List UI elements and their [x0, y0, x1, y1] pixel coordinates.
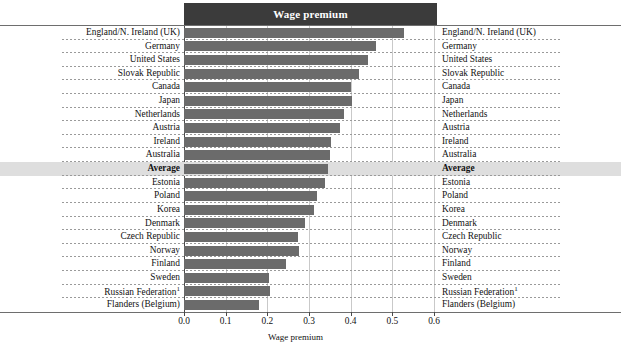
table-row: AustriaAustria	[0, 121, 621, 135]
row-label-left: Czech Republic	[62, 230, 180, 244]
bar	[184, 164, 328, 174]
table-row: PolandPoland	[0, 189, 621, 203]
row-label-left: Japan	[62, 94, 180, 108]
row-label-right: Ireland	[442, 135, 592, 149]
row-label-right: Poland	[442, 189, 592, 203]
table-row: NorwayNorway	[0, 244, 621, 258]
table-row: IrelandIreland	[0, 135, 621, 149]
bar	[184, 137, 331, 147]
table-row: JapanJapan	[0, 94, 621, 108]
row-label-left: Flanders (Belgium)	[62, 298, 180, 312]
table-row: Czech RepublicCzech Republic	[0, 230, 621, 244]
table-row: EstoniaEstonia	[0, 176, 621, 190]
row-label-left: Canada	[62, 80, 180, 94]
bar-rows: England/N. Ireland (UK)England/N. Irelan…	[0, 26, 621, 312]
x-axis: Wage premium 0.00.10.20.30.40.50.6	[0, 312, 621, 346]
row-label-right: Estonia	[442, 176, 592, 190]
row-label-left: Denmark	[62, 217, 180, 231]
table-row: Russian Federation1Russian Federation1	[0, 285, 621, 299]
row-label-left: Ireland	[62, 135, 180, 149]
row-label-left: Slovak Republic	[62, 67, 180, 81]
row-label-right: Czech Republic	[442, 230, 592, 244]
bar	[184, 178, 325, 188]
bar	[184, 96, 352, 106]
bar	[184, 109, 344, 119]
row-label-left: Norway	[62, 244, 180, 258]
row-label-left: Australia	[62, 148, 180, 162]
bar	[184, 205, 314, 215]
row-label-right: Germany	[442, 40, 592, 54]
table-row: England/N. Ireland (UK)England/N. Irelan…	[0, 26, 621, 40]
bar	[184, 273, 269, 283]
row-label-right: Canada	[442, 80, 592, 94]
x-axis-label: Wage premium	[268, 332, 323, 342]
x-tick-label-0.4: 0.4	[345, 316, 357, 326]
chart-title: Wage premium	[273, 8, 348, 20]
table-row: FinlandFinland	[0, 257, 621, 271]
row-label-right: United States	[442, 53, 592, 67]
row-label-right: Austria	[442, 121, 592, 135]
row-label-left: Germany	[62, 40, 180, 54]
table-row: AustraliaAustralia	[0, 148, 621, 162]
row-label-right: Denmark	[442, 217, 592, 231]
row-label-right: Australia	[442, 148, 592, 162]
row-label-right: Average	[442, 162, 592, 176]
x-tick-label-0.5: 0.5	[386, 316, 398, 326]
row-label-right: Flanders (Belgium)	[442, 298, 592, 312]
x-tick-label-0.3: 0.3	[303, 316, 315, 326]
row-label-left: Estonia	[62, 176, 180, 190]
row-label-left: Austria	[62, 121, 180, 135]
row-label-left: England/N. Ireland (UK)	[62, 26, 180, 40]
table-row: NetherlandsNetherlands	[0, 108, 621, 122]
row-label-right: Korea	[442, 203, 592, 217]
x-tick-label-0.1: 0.1	[220, 316, 232, 326]
bar	[184, 191, 317, 201]
bar	[184, 55, 368, 65]
bar	[184, 82, 351, 92]
row-label-right: England/N. Ireland (UK)	[442, 26, 592, 40]
table-row: United StatesUnited States	[0, 53, 621, 67]
table-row: KoreaKorea	[0, 203, 621, 217]
table-row: GermanyGermany	[0, 40, 621, 54]
row-label-left: United States	[62, 53, 180, 67]
chart-title-bar: Wage premium	[184, 3, 437, 25]
table-row: Flanders (Belgium)Flanders (Belgium)	[0, 298, 621, 312]
table-row: Slovak RepublicSlovak Republic	[0, 67, 621, 81]
bar	[184, 259, 286, 269]
bar	[184, 69, 359, 79]
row-label-right: Finland	[442, 257, 592, 271]
table-row: CanadaCanada	[0, 80, 621, 94]
bar	[184, 123, 340, 133]
bar	[184, 218, 305, 228]
row-label-left: Average	[62, 162, 180, 176]
row-label-left: Poland	[62, 189, 180, 203]
row-label-right: Japan	[442, 94, 592, 108]
bar	[184, 150, 330, 160]
bar	[184, 300, 259, 310]
bar	[184, 28, 404, 38]
bar	[184, 232, 298, 242]
bar	[184, 41, 376, 51]
row-label-left: Finland	[62, 257, 180, 271]
row-label-right: Norway	[442, 244, 592, 258]
table-row: DenmarkDenmark	[0, 217, 621, 231]
bar	[184, 286, 270, 296]
row-label-right: Slovak Republic	[442, 67, 592, 81]
bar	[184, 246, 299, 256]
row-label-right: Netherlands	[442, 108, 592, 122]
table-row: AverageAverage	[0, 162, 621, 176]
x-tick-label-0.0: 0.0	[178, 316, 190, 326]
x-tick-label-0.2: 0.2	[261, 316, 273, 326]
row-label-left: Netherlands	[62, 108, 180, 122]
wage-premium-chart: Wage premium England/N. Ireland (UK)Engl…	[0, 0, 621, 346]
row-label-left: Korea	[62, 203, 180, 217]
x-tick-label-0.6: 0.6	[428, 316, 440, 326]
